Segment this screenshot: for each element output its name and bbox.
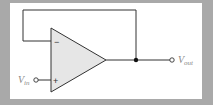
inverting-input-sign: − — [54, 37, 59, 47]
input-terminal — [34, 78, 38, 82]
opamp-circuit: − + Vin Vout — [0, 0, 213, 105]
output-terminal — [170, 58, 174, 62]
junction-node — [134, 58, 138, 62]
input-label: Vin — [18, 74, 30, 87]
output-label: Vout — [178, 54, 194, 67]
non-inverting-input-sign: + — [53, 76, 58, 86]
